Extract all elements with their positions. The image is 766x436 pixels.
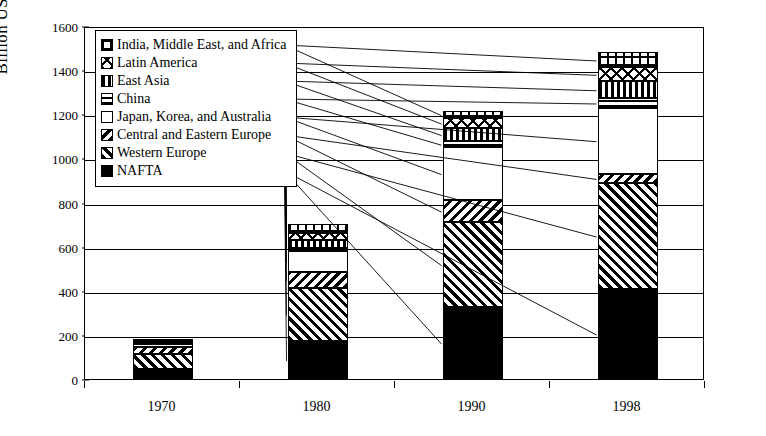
- legend-item-label: India, Middle East, and Africa: [117, 38, 287, 52]
- legend-swatch-icon: [101, 57, 113, 69]
- bar-segment-1980-central-and-eastern-europe[interactable]: [288, 272, 348, 288]
- bar-segment-1970-central-and-eastern-europe[interactable]: [133, 347, 193, 354]
- legend-item-latin-america[interactable]: Latin America: [101, 54, 287, 72]
- legend-swatch-icon: [101, 147, 113, 159]
- bar-segment-1970-japan-korea-and-australia[interactable]: [133, 344, 193, 347]
- bar-segment-1998-western-europe[interactable]: [598, 183, 658, 289]
- x-tick-mark: [239, 381, 240, 388]
- x-tick-mark: [84, 381, 85, 388]
- legend-swatch-icon: [101, 39, 113, 51]
- bar-segment-1990-japan-korea-and-australia[interactable]: [443, 147, 503, 200]
- legend-item-east-asia[interactable]: East Asia: [101, 72, 287, 90]
- legend-item-label: NAFTA: [117, 164, 163, 178]
- bar-segment-1998-japan-korea-and-australia[interactable]: [598, 108, 658, 174]
- legend-swatch-icon: [101, 111, 113, 123]
- bar-segment-1998-nafta[interactable]: [598, 289, 658, 379]
- legend-item-western-europe[interactable]: Western Europe: [101, 144, 287, 162]
- bar-segment-1980-india-middle-east-and-africa[interactable]: [288, 224, 348, 233]
- bar-segment-1998-central-and-eastern-europe[interactable]: [598, 174, 658, 183]
- bar-segment-1980-east-asia[interactable]: [288, 240, 348, 248]
- legend-swatch-icon: [101, 75, 113, 87]
- x-tick-mark: [549, 381, 550, 388]
- bar-segment-1980-latin-america[interactable]: [288, 233, 348, 239]
- legend-item-label: Central and Eastern Europe: [117, 128, 271, 142]
- bar-segment-1990-india-middle-east-and-africa[interactable]: [443, 111, 503, 119]
- bar-segment-1990-central-and-eastern-europe[interactable]: [443, 200, 503, 222]
- x-axis: 1970198019901998: [84, 381, 704, 421]
- y-tick-label: 400: [59, 285, 79, 298]
- bar-1990[interactable]: [443, 26, 503, 379]
- x-tick-mark: [394, 381, 395, 388]
- bar-segment-1998-china[interactable]: [598, 98, 658, 107]
- x-tick-label-1990: 1990: [458, 399, 486, 415]
- bar-segment-1970-nafta[interactable]: [133, 369, 193, 379]
- bar-segment-1998-east-asia[interactable]: [598, 81, 658, 98]
- y-tick-label: 1400: [52, 65, 78, 78]
- bar-segment-1990-latin-america[interactable]: [443, 118, 503, 127]
- y-tick-label: 1200: [52, 109, 78, 122]
- y-tick-label: 1600: [52, 21, 78, 34]
- legend-swatch-icon: [101, 129, 113, 141]
- legend-item-label: Western Europe: [117, 146, 206, 160]
- legend-item-india-middle-east-and-africa[interactable]: India, Middle East, and Africa: [101, 36, 287, 54]
- legend-item-central-and-eastern-europe[interactable]: Central and Eastern Europe: [101, 126, 287, 144]
- y-tick-label: 0: [72, 374, 79, 387]
- y-tick-label: 1000: [52, 153, 78, 166]
- bar-segment-1990-east-asia[interactable]: [443, 128, 503, 142]
- legend-item-china[interactable]: China: [101, 90, 287, 108]
- x-tick-label-1970: 1970: [148, 399, 176, 415]
- chart-figure: 02004006008001000120014001600 Billion US…: [0, 0, 766, 436]
- bar-segment-1998-india-middle-east-and-africa[interactable]: [598, 52, 658, 67]
- y-tick-label: 600: [59, 241, 79, 254]
- legend-item-label: China: [117, 92, 150, 106]
- bar-segment-1990-china[interactable]: [443, 141, 503, 147]
- legend-item-japan-korea-and-australia[interactable]: Japan, Korea, and Australia: [101, 108, 287, 126]
- y-tick-label: 200: [59, 329, 79, 342]
- y-axis: 02004006008001000120014001600: [60, 20, 86, 388]
- legend-item-label: East Asia: [117, 74, 170, 88]
- x-tick-mark: [704, 381, 705, 388]
- bar-segment-1998-latin-america[interactable]: [598, 67, 658, 81]
- bar-segment-1980-western-europe[interactable]: [288, 288, 348, 341]
- legend-item-label: Japan, Korea, and Australia: [117, 110, 271, 124]
- bar-segment-1980-nafta[interactable]: [288, 341, 348, 379]
- y-axis-label: Billion USD: [0, 0, 12, 120]
- x-tick-label-1980: 1980: [303, 399, 331, 415]
- bar-segment-1990-nafta[interactable]: [443, 307, 503, 379]
- x-tick-label-1998: 1998: [613, 399, 641, 415]
- legend: India, Middle East, and AfricaLatin Amer…: [95, 30, 297, 187]
- bar-segment-1970-india-middle-east-and-africa[interactable]: [133, 339, 193, 341]
- bar-segment-1980-china[interactable]: [288, 248, 348, 251]
- legend-item-label: Latin America: [117, 56, 197, 70]
- bar-segment-1990-western-europe[interactable]: [443, 222, 503, 307]
- legend-item-nafta[interactable]: NAFTA: [101, 162, 287, 180]
- bar-segment-1970-western-europe[interactable]: [133, 354, 193, 369]
- bar-segment-1980-japan-korea-and-australia[interactable]: [288, 251, 348, 273]
- legend-swatch-icon: [101, 165, 113, 177]
- legend-swatch-icon: [101, 93, 113, 105]
- bar-1998[interactable]: [598, 26, 658, 379]
- y-tick-label: 800: [59, 197, 79, 210]
